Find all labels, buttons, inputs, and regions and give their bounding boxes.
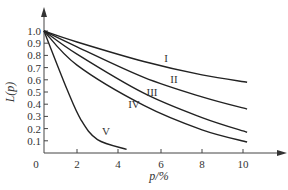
curve-label-iv: IV (128, 98, 140, 110)
curve-label-i: I (164, 52, 168, 64)
curve-label-iii: III (147, 86, 158, 98)
y-tick-label: 0.9 (27, 37, 41, 49)
x-axis-arrow-icon (277, 150, 287, 156)
y-axis-title: L(p) (3, 82, 17, 104)
origin-label: 0 (33, 158, 39, 170)
y-tick-label: 1.0 (27, 25, 41, 37)
curve-v (44, 31, 127, 149)
y-tick-label: 0.3 (27, 110, 41, 122)
x-tick-label: 4 (115, 158, 121, 170)
curve-i (44, 31, 247, 82)
x-axis-title: p/% (148, 169, 168, 183)
y-tick-label: 0.4 (27, 98, 41, 110)
y-tick-label: 0.1 (27, 135, 41, 147)
y-tick-label: 0.6 (27, 74, 41, 86)
x-tick-label: 8 (199, 158, 205, 170)
curve-label-ii: II (170, 73, 178, 85)
axes (41, 7, 287, 156)
y-tick-label: 0.2 (27, 123, 41, 135)
curve-labels: IIIIIIIVV (102, 52, 178, 137)
x-tick-label: 10 (238, 158, 250, 170)
chart: 2468100.10.20.30.40.50.60.70.80.91.0 III… (0, 0, 288, 190)
y-axis-arrow-icon (41, 7, 47, 17)
y-tick-label: 0.8 (27, 49, 41, 61)
y-tick-label: 0.7 (27, 62, 41, 74)
y-tick-label: 0.5 (27, 86, 41, 98)
x-tick-label: 2 (74, 158, 80, 170)
curve-label-v: V (102, 125, 110, 137)
